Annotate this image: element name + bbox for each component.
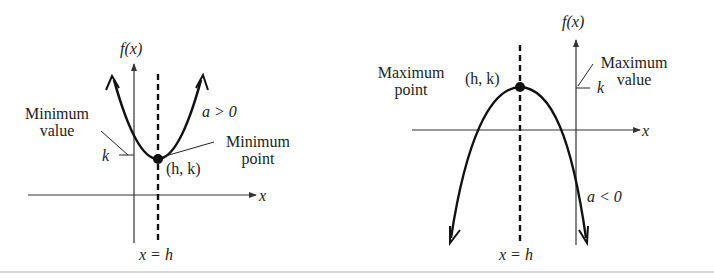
left-vertex-callout: Minimum point xyxy=(218,133,298,167)
right-y-axis-label: f(x) xyxy=(562,13,584,30)
right-vertex-label: (h, k) xyxy=(465,70,500,87)
left-y-axis-label: f(x) xyxy=(120,40,142,57)
right-k-label: k xyxy=(597,79,604,96)
right-value-callout: Maximum value xyxy=(594,54,674,88)
right-axis-of-symmetry-label: x = h xyxy=(499,246,533,263)
right-max-value-leader xyxy=(578,64,593,86)
parabola-diagrams xyxy=(0,0,714,278)
right-x-axis-label: x xyxy=(642,122,649,139)
right-vertex-point xyxy=(515,82,525,92)
right-vertex-callout: Maximum point xyxy=(368,64,454,98)
left-x-axis-label: x xyxy=(259,187,266,204)
left-condition-label: a > 0 xyxy=(202,103,237,120)
right-parabola-curve xyxy=(451,87,586,238)
left-vertex-label: (h, k) xyxy=(166,160,201,177)
right-condition-label: a < 0 xyxy=(587,188,622,205)
left-axis-of-symmetry-label: x = h xyxy=(139,246,173,263)
bottom-divider xyxy=(0,271,714,273)
left-min-point-leader xyxy=(162,142,214,157)
left-value-callout: Minimum value xyxy=(14,105,100,139)
left-vertex-point xyxy=(153,154,163,164)
left-k-label: k xyxy=(102,147,109,164)
